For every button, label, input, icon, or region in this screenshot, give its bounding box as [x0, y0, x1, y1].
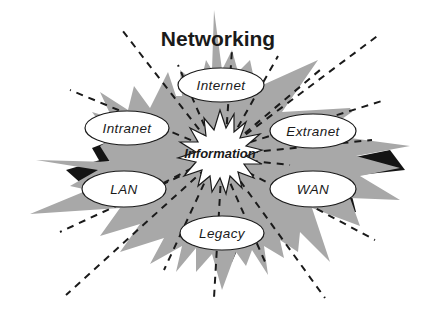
node-label: Legacy	[199, 226, 246, 241]
node-lan: LAN	[82, 171, 166, 207]
node-label: Extranet	[286, 124, 340, 139]
center-label: Information	[184, 146, 256, 161]
node-legacy: Legacy	[180, 216, 264, 250]
diagram-title: Networking	[161, 27, 275, 50]
node-label: Internet	[197, 78, 247, 93]
networking-diagram: Information Networking Internet Intranet…	[0, 0, 426, 314]
node-label: WAN	[297, 182, 329, 197]
node-extranet: Extranet	[270, 114, 356, 148]
node-wan: WAN	[270, 171, 356, 207]
node-label: Intranet	[103, 121, 153, 136]
node-label: LAN	[110, 182, 137, 197]
node-internet: Internet	[178, 68, 264, 102]
node-intranet: Intranet	[85, 111, 169, 145]
